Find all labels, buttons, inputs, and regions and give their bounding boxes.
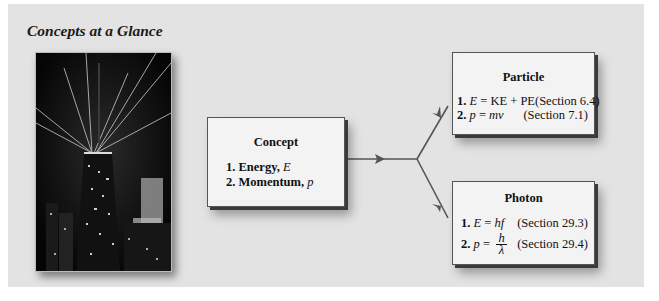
concept-item-energy: 1. Energy, E [226,160,344,175]
fraction-h-over-lambda: h λ [496,233,507,256]
section-ref: (Section 6.4) [535,94,606,108]
arrow-down-icon [432,204,441,212]
photon-momentum-row: 2. p = h λ (Section 29.4) [461,231,594,257]
concept-box: Concept 1. Energy, E 2. Momentum, p [207,117,345,207]
photon-box: Photon 1. E = hf (Section 29.3) 2. p = h… [452,181,595,265]
concept-heading: Concept [208,135,344,150]
section-ref: (Section 7.1) [523,108,594,122]
arrow-up-icon [432,106,441,118]
section-ref: (Section 29.3) [517,216,594,230]
particle-box: Particle 1. E = KE + PE (Section 6.4) 2.… [452,52,595,135]
particle-energy-row: 1. E = KE + PE (Section 6.4) [457,94,594,108]
photon-heading: Photon [453,191,594,206]
photon-energy-row: 1. E = hf (Section 29.3) [461,215,594,231]
particle-heading: Particle [453,70,594,85]
concept-item-momentum: 2. Momentum, p [226,175,344,190]
section-ref: (Section 29.4) [517,237,594,251]
concept-list: 1. Energy, E 2. Momentum, p [226,160,344,190]
particle-momentum-row: 2. p = mv (Section 7.1) [457,108,594,122]
